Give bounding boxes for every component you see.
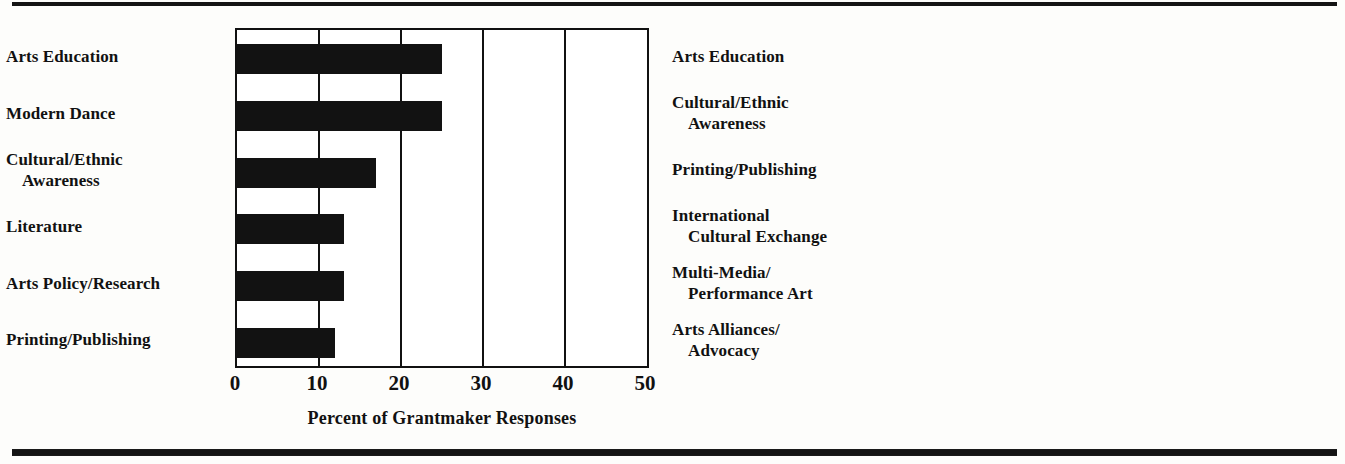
gridline-20 [400, 30, 402, 366]
x-tick-label-grantmaker-20: 20 [389, 372, 410, 394]
gridline-10 [318, 30, 320, 366]
category-label-grantee-3: InternationalCultural Exchange [672, 205, 886, 247]
gridline-30 [482, 30, 484, 366]
category-label-line: Cultural/Ethnic [672, 92, 886, 113]
category-label-line: Cultural Exchange [672, 226, 886, 247]
category-label-line: International [672, 205, 886, 226]
bottom-rule [12, 449, 1337, 456]
category-label-line: Literature [6, 216, 218, 237]
category-label-grantee-1: Cultural/EthnicAwareness [672, 92, 886, 134]
category-label-line: Cultural/Ethnic [6, 149, 218, 170]
plot-area-grantmaker [235, 28, 649, 368]
x-axis-title-grantmaker: Percent of Grantmaker Responses [201, 408, 683, 429]
x-tick-label-grantmaker-30: 30 [471, 372, 492, 394]
category-label-line: Arts Alliances/ [672, 319, 886, 340]
category-label-grantmaker-4: Arts Policy/Research [6, 273, 218, 294]
category-label-grantee-0: Arts Education [672, 46, 886, 67]
category-label-line: Arts Education [672, 46, 886, 67]
category-label-line: Modern Dance [6, 103, 218, 124]
category-label-grantmaker-0: Arts Education [6, 46, 218, 67]
category-label-grantmaker-2: Cultural/EthnicAwareness [6, 149, 218, 191]
category-labels-grantee: Arts EducationCultural/EthnicAwarenessPr… [672, 28, 896, 368]
x-tick-label-grantmaker-40: 40 [553, 372, 574, 394]
x-axis-ticks-grantmaker: 01020304050 [235, 372, 649, 398]
bar-grantmaker-5 [237, 328, 335, 358]
category-label-line: Awareness [6, 170, 218, 191]
category-label-grantmaker-3: Literature [6, 216, 218, 237]
chart-panel-grantee: Arts EducationCultural/EthnicAwarenessPr… [672, 0, 1345, 464]
x-tick-label-grantmaker-0: 0 [230, 372, 241, 394]
category-label-line: Advocacy [672, 340, 886, 361]
category-label-grantee-4: Multi-Media/Performance Art [672, 262, 886, 304]
bar-grantmaker-1 [237, 101, 442, 131]
figure-canvas: Arts EducationModern DanceCultural/Ethni… [0, 0, 1345, 464]
bar-grantmaker-2 [237, 158, 376, 188]
bar-grantmaker-3 [237, 214, 344, 244]
category-label-line: Printing/Publishing [6, 329, 218, 350]
category-labels-grantmaker: Arts EducationModern DanceCultural/Ethni… [6, 28, 228, 368]
x-tick-label-grantmaker-10: 10 [307, 372, 328, 394]
gridline-40 [564, 30, 566, 366]
category-label-grantee-5: Arts Alliances/Advocacy [672, 319, 886, 361]
category-label-grantee-2: Printing/Publishing [672, 159, 886, 180]
category-label-line: Arts Policy/Research [6, 273, 218, 294]
chart-panel-grantmaker: Arts EducationModern DanceCultural/Ethni… [0, 0, 672, 464]
bar-grantmaker-4 [237, 271, 344, 301]
category-label-grantmaker-1: Modern Dance [6, 103, 218, 124]
category-label-line: Performance Art [672, 283, 886, 304]
bar-grantmaker-0 [237, 44, 442, 74]
category-label-grantmaker-5: Printing/Publishing [6, 329, 218, 350]
category-label-line: Printing/Publishing [672, 159, 886, 180]
category-label-line: Awareness [672, 113, 886, 134]
x-tick-label-grantmaker-50: 50 [635, 372, 656, 394]
category-label-line: Multi-Media/ [672, 262, 886, 283]
category-label-line: Arts Education [6, 46, 218, 67]
